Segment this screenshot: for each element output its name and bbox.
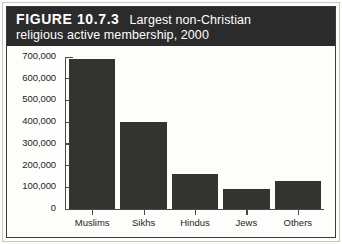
y-tick-label: 200,000 [22, 159, 56, 170]
y-tick-label: 300,000 [22, 137, 56, 148]
bar-series [66, 57, 324, 209]
x-tick-label: Others [284, 217, 313, 228]
x-tick-label: Jews [236, 217, 258, 228]
x-axis-category: Others [275, 209, 321, 235]
bar-slot [120, 57, 166, 209]
y-tick-label: 0 [51, 202, 56, 213]
chart-area: 700,000600,000500,000400,000300,000200,0… [7, 47, 335, 237]
y-tick-label: 100,000 [22, 180, 56, 191]
x-tick-mark [298, 209, 299, 215]
bar-hindus [172, 174, 218, 209]
y-tick-label: 700,000 [22, 50, 56, 61]
x-axis-category: Hindus [172, 209, 218, 235]
x-axis-category: Sikhs [120, 209, 166, 235]
x-axis-category: Jews [223, 209, 269, 235]
y-tick-label: 400,000 [22, 115, 56, 126]
x-axis-category: Muslims [69, 209, 115, 235]
x-axis-ticks: MuslimsSikhsHindusJewsOthers [66, 209, 324, 235]
y-tick-label: 600,000 [22, 72, 56, 83]
x-tick-mark [246, 209, 247, 215]
x-tick-mark [195, 209, 196, 215]
bar-muslims [69, 59, 115, 209]
x-tick-mark [92, 209, 93, 215]
figure-caption-part-2: religious active membership, 2000 [16, 27, 327, 44]
bar-sikhs [120, 122, 166, 209]
caption-line-1: FIGURE 10.7.3Largest non-Christian [16, 10, 327, 27]
y-tick-label: 500,000 [22, 93, 56, 104]
bar-slot [223, 57, 269, 209]
x-tick-mark [144, 209, 145, 215]
x-tick-label: Hindus [180, 217, 210, 228]
figure-caption-part-1: Largest non-Christian [130, 13, 252, 27]
x-tick-label: Sikhs [132, 217, 155, 228]
figure-caption-banner: FIGURE 10.7.3Largest non-Christian relig… [7, 7, 335, 46]
plot-area: 700,000600,000500,000400,000300,000200,0… [65, 57, 324, 210]
figure-number-label: FIGURE 10.7.3 [16, 11, 120, 27]
bar-slot [172, 57, 218, 209]
bar-others [275, 181, 321, 209]
bar-slot [275, 57, 321, 209]
bar-slot [69, 57, 115, 209]
bar-jews [223, 189, 269, 209]
x-tick-label: Muslims [75, 217, 110, 228]
figure-container: FIGURE 10.7.3Largest non-Christian relig… [0, 0, 342, 244]
